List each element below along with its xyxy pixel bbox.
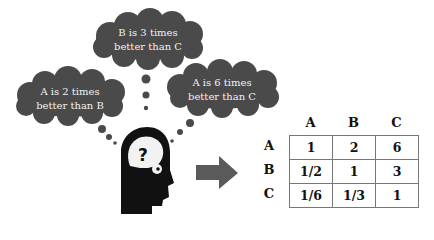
thought-line: A is 2 times xyxy=(20,85,120,99)
thought-line: better than C xyxy=(98,40,198,54)
matrix-cell: 1 xyxy=(376,184,419,208)
thought-line: better than B xyxy=(20,99,120,113)
matrix-cell: 1 xyxy=(290,136,333,160)
comparison-matrix: 1 2 6 1/2 1 3 1/6 1/3 1 xyxy=(289,135,419,208)
matrix-col-header: A xyxy=(289,115,332,130)
thought-line: better than C xyxy=(172,90,272,104)
matrix-cell: 1/6 xyxy=(290,184,333,208)
matrix-cell: 1/3 xyxy=(333,184,376,208)
matrix-cell: 1 xyxy=(333,160,376,184)
matrix-cell: 1/2 xyxy=(290,160,333,184)
thought-text-left: A is 2 times better than B xyxy=(20,85,120,113)
matrix-row-header: C xyxy=(259,186,279,201)
matrix-col-header: C xyxy=(375,115,418,130)
thought-line: A is 6 times xyxy=(172,76,272,90)
matrix-cell: 3 xyxy=(376,160,419,184)
thought-line: B is 3 times xyxy=(98,26,198,40)
matrix-row: 1 2 6 xyxy=(290,136,419,160)
thinking-head-icon: ? xyxy=(121,127,174,214)
matrix-cell: 6 xyxy=(376,136,419,160)
matrix-cell: 2 xyxy=(333,136,376,160)
thought-text-right: A is 6 times better than C xyxy=(172,76,272,104)
matrix-row: 1/6 1/3 1 xyxy=(290,184,419,208)
matrix-row: 1/2 1 3 xyxy=(290,160,419,184)
question-mark-icon: ? xyxy=(138,145,148,165)
matrix-row-header: B xyxy=(259,162,279,177)
right-arrow-icon xyxy=(196,156,238,189)
matrix-col-header: B xyxy=(332,115,375,130)
matrix-row-header: A xyxy=(259,138,279,153)
thought-text-top: B is 3 times better than C xyxy=(98,26,198,54)
